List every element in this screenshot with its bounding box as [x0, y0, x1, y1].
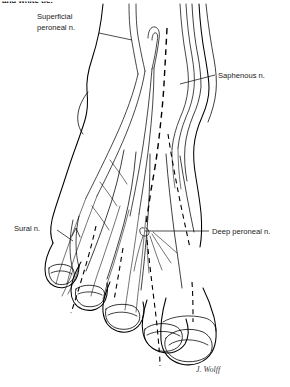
- fifth-toe-nail-crease: [51, 271, 72, 274]
- third-toe-nail: [105, 304, 139, 329]
- label-saphenous-text: Saphenous n.: [218, 71, 265, 80]
- spn-twig-2: [100, 182, 117, 206]
- saphenous-branch-distal: [178, 148, 181, 189]
- fourth-toe-nail-crease: [78, 292, 102, 295]
- dpn-twig-4: [152, 234, 171, 263]
- artist-signature-text: J. Wolff: [196, 365, 222, 374]
- leader-line-superficial-peroneal: [99, 33, 132, 40]
- saphenous-trunk-1: [178, 4, 194, 148]
- saphenous-trunk-2: [172, 4, 188, 149]
- medial-inner-contour: [185, 4, 201, 181]
- label-deep-peroneal: Deep peroneal n.: [145, 227, 270, 236]
- label-superficial-peroneal-line2: peroneal n.: [37, 23, 75, 32]
- great-toe-nail-crease: [169, 340, 208, 345]
- spn-digital-3: [125, 214, 139, 310]
- medial-outer-contour: [206, 4, 216, 122]
- spn-digital-3b: [136, 216, 146, 312]
- label-superficial-peroneal-line1: Superficial: [37, 12, 73, 21]
- third-toe-nail-crease: [108, 312, 137, 316]
- spn-twig-3: [92, 206, 109, 230]
- dorsum-contour-4: [166, 154, 182, 288]
- label-sural: Sural n.: [14, 224, 73, 241]
- label-deep-peroneal-text: Deep peroneal n.: [212, 227, 270, 236]
- dpn-twig-3: [150, 236, 162, 270]
- spn-twig-1: [110, 160, 127, 184]
- deep-peroneal-nerve: [71, 28, 193, 366]
- foot-nerve-diagram: Superficial peroneal n. Saphenous n. Sur…: [0, 0, 290, 387]
- dpn-twig-2: [147, 237, 149, 273]
- medial-leg-border: [194, 4, 209, 247]
- dpn-twig-5: [153, 232, 177, 253]
- label-saphenous: Saphenous n.: [180, 71, 265, 84]
- leader-line-saphenous: [180, 75, 215, 84]
- anatomy-figure: Superficial peroneal n. Saphenous n. Sur…: [0, 0, 290, 387]
- fourth-toe-nail: [75, 285, 104, 306]
- lateral-leg-border: [51, 4, 103, 243]
- spn-branch-a1: [86, 74, 138, 198]
- spn-trunk-medial: [136, 4, 145, 71]
- dorsum-contour-5: [180, 156, 194, 232]
- label-superficial-peroneal: Superficial peroneal n.: [37, 12, 132, 40]
- dpn-fourth-ray-dashed: [114, 248, 123, 300]
- cropped-caption: and white tie.: [0, 0, 290, 5]
- fourth-toe-outline: [71, 262, 107, 310]
- caption-crop-mask: [0, 0, 290, 2]
- third-toe: [103, 282, 144, 332]
- spn-trunk-lateral: [129, 4, 138, 74]
- dpn-fifth-ray-dashed: [71, 226, 96, 313]
- saphenous-branch-distal-2: [172, 149, 175, 188]
- artist-signature: J. Wolff: [196, 365, 222, 374]
- limb-outline: [51, 4, 217, 247]
- fifth-toe-nail: [49, 264, 74, 284]
- label-sural-text: Sural n.: [14, 224, 40, 233]
- great-toe-base-crease: [163, 316, 216, 331]
- fourth-toe: [71, 262, 107, 310]
- second-toe-nail: [144, 324, 182, 352]
- saphenous-nerve: [172, 4, 194, 189]
